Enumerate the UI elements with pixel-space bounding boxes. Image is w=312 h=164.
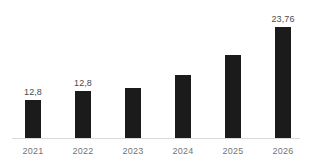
x-tick-label-2022: 2022 <box>58 146 108 157</box>
x-tick-label-2023: 2023 <box>108 146 158 157</box>
bar-chart: 12,8 12,8 23,76 2021 2022 2023 2024 <box>0 0 312 164</box>
bar-2024[interactable] <box>175 75 191 138</box>
bar-2021[interactable] <box>25 100 41 138</box>
x-tick-label-2024: 2024 <box>158 146 208 157</box>
bar-group-2022: 12,8 <box>58 0 108 138</box>
bar-2023[interactable] <box>125 88 141 138</box>
bar-2026[interactable] <box>275 27 291 138</box>
bar-value-label: 12,8 <box>74 78 92 88</box>
plot-area: 12,8 12,8 23,76 <box>0 0 312 138</box>
bar-2022[interactable] <box>75 91 91 138</box>
x-axis-baseline <box>12 138 300 139</box>
bar-2025[interactable] <box>225 55 241 138</box>
bar-value-label: 23,76 <box>271 14 294 24</box>
bar-group-2025 <box>208 0 258 138</box>
x-tick-label-2026: 2026 <box>258 146 308 157</box>
bar-group-2023 <box>108 0 158 138</box>
x-axis-labels: 2021 2022 2023 2024 2025 2026 <box>0 142 312 160</box>
bar-group-2021: 12,8 <box>8 0 58 138</box>
bar-group-2026: 23,76 <box>258 0 308 138</box>
x-tick-label-2025: 2025 <box>208 146 258 157</box>
x-tick-label-2021: 2021 <box>8 146 58 157</box>
bar-value-label: 12,8 <box>24 87 42 97</box>
bar-group-2024 <box>158 0 208 138</box>
